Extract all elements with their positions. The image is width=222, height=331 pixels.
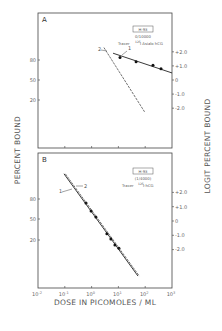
panel-a-series-1-label: 1 bbox=[128, 45, 131, 51]
panel-a-series-1-point bbox=[135, 60, 138, 63]
y-axis-right-label: LOGIT PERCENT BOUND bbox=[203, 99, 212, 194]
panel-b-series-2-label: 2 bbox=[84, 183, 87, 189]
panel-b-y-right-tick-label: +1.0 bbox=[175, 204, 187, 210]
panel-b-y-right-tick-label: -2.0 bbox=[175, 246, 185, 252]
panel-a-y-left-tick-label: 50 bbox=[30, 77, 36, 83]
panel-a: A H-93 0/10000 Tracer 125 I Asialo hCG 8… bbox=[30, 13, 188, 148]
panel-b-y-left-tick-label: 50 bbox=[30, 216, 36, 222]
panel-a-y-left-tick-label: 80 bbox=[30, 57, 36, 63]
panel-a-series-1-arrow bbox=[122, 51, 127, 55]
panel-a-series-1-line bbox=[113, 53, 172, 73]
panel-b: B H-93 (1/4000) Tracer 125 I-hCG 10-210-… bbox=[30, 153, 188, 297]
panel-a-y-right-tick-label: +1.0 bbox=[175, 63, 187, 69]
panel-b-x-tick-label: 10-1 bbox=[59, 291, 69, 297]
panel-b-y-right-tick-label: 0 bbox=[175, 218, 178, 224]
panel-b-series-1-arrow bbox=[62, 189, 72, 192]
y-axis-left-label: PERCENT BOUND bbox=[13, 116, 22, 184]
panel-a-series-1-point bbox=[119, 56, 122, 59]
panel-a-y-right-tick-label: -1.0 bbox=[175, 91, 185, 97]
panel-b-x-tick-label: 103 bbox=[167, 291, 176, 297]
panel-a-series-1-point bbox=[160, 67, 163, 70]
panel-b-series-1-point bbox=[105, 232, 108, 235]
panel-a-frame bbox=[38, 13, 172, 148]
panel-a-series-1-point bbox=[151, 64, 154, 67]
panel-a-y-right-tick-label: 0 bbox=[175, 77, 178, 83]
panel-b-tracer-word: Tracer bbox=[121, 183, 134, 188]
panel-b-series-1-label: 1 bbox=[59, 188, 62, 194]
panel-b-series-1-line bbox=[64, 174, 138, 276]
panel-a-y-right-tick-label: +2.0 bbox=[175, 49, 187, 55]
panel-b-letter: B bbox=[42, 156, 47, 164]
panel-b-dilution: (1/4000) bbox=[135, 176, 152, 181]
panel-b-series-2-line bbox=[65, 174, 139, 276]
panel-b-series-1-point bbox=[113, 244, 116, 247]
panel-a-y-left-tick-label: 20 bbox=[30, 97, 36, 103]
panel-b-x-tick-label: 10-2 bbox=[32, 291, 42, 297]
panel-b-y-right-tick-label: -1.0 bbox=[175, 232, 185, 238]
panel-a-y-right-tick-label: -2.0 bbox=[175, 105, 185, 111]
panel-b-box-label: H-93 bbox=[138, 169, 148, 174]
panel-b-x-tick-label: 100 bbox=[86, 291, 95, 297]
figure: A H-93 0/10000 Tracer 125 I Asialo hCG 8… bbox=[0, 0, 222, 331]
panel-b-y-left-tick-label: 20 bbox=[30, 237, 36, 243]
panel-b-tracer-name: I-hCG bbox=[143, 183, 154, 188]
panel-b-y-left-tick-label: 80 bbox=[30, 196, 36, 202]
panel-b-y-right-tick-label: +2.0 bbox=[175, 189, 187, 195]
panel-b-frame bbox=[38, 153, 172, 288]
panel-a-series-2-label: 2 bbox=[98, 46, 101, 52]
panel-a-tracer-name: I Asialo hCG bbox=[140, 41, 163, 46]
panel-b-x-tick-label: 102 bbox=[140, 291, 149, 297]
panel-a-box-label: H-93 bbox=[138, 27, 148, 32]
panel-b-x-tick-label: 101 bbox=[113, 291, 122, 297]
x-axis-label: DOSE IN PICOMOLES / ML bbox=[54, 298, 157, 307]
panel-a-letter: A bbox=[42, 16, 47, 24]
panel-a-dilution: 0/10000 bbox=[135, 34, 151, 39]
